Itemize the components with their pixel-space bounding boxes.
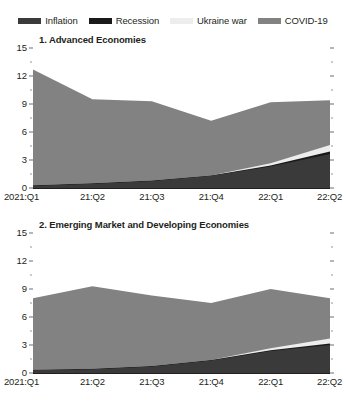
stacked-area-svg-2 — [33, 233, 330, 373]
y-tick-label: 15 — [0, 228, 27, 238]
plot-area-2 — [33, 233, 330, 373]
y-axis-labels-2: 03691215 — [0, 233, 27, 373]
y-tick-mark — [330, 289, 334, 290]
legend-item-inflation: Inflation — [18, 16, 77, 26]
x-tick-label: 22:Q1 — [258, 376, 283, 387]
y-tick-mark — [330, 188, 334, 189]
y-tick-label: 12 — [0, 256, 27, 266]
chart-legend: Inflation Recession Ukraine war COVID-19 — [0, 0, 346, 34]
x-axis-line-1 — [33, 188, 330, 189]
y-tick-mark — [330, 373, 334, 374]
panel-title-1: 1. Advanced Economies — [39, 34, 146, 46]
x-tick-label: 2021:Q1 — [4, 376, 39, 387]
x-tick-label: 21:Q4 — [199, 376, 224, 387]
y-axis-ticks-right-2 — [330, 233, 334, 373]
legend-item-ukraine-war: Ukraine war — [170, 16, 247, 26]
y-tick-mark — [330, 160, 334, 161]
y-tick-mark-minor — [30, 90, 32, 91]
x-tick-label: 21:Q2 — [80, 376, 105, 387]
y-tick-mark-minor — [30, 331, 32, 332]
chart-panel-advanced-economies: 1. Advanced Economies 03691215 2021:Q121… — [0, 34, 346, 219]
y-tick-label: 3 — [0, 155, 27, 165]
y-tick-mark-minor — [331, 359, 333, 360]
y-tick-mark — [330, 345, 334, 346]
y-tick-mark — [330, 132, 334, 133]
y-tick-mark-minor — [331, 90, 333, 91]
x-tick-label: 22:Q2 — [317, 191, 342, 202]
plot-area-1 — [33, 48, 330, 188]
legend-item-covid-19: COVID-19 — [258, 16, 328, 26]
legend-label-covid-19: COVID-19 — [285, 16, 328, 26]
legend-label-recession: Recession — [116, 16, 159, 26]
y-tick-mark-minor — [30, 275, 32, 276]
x-tick-label: 22:Q1 — [258, 191, 283, 202]
y-tick-label: 3 — [0, 340, 27, 350]
y-tick-mark-minor — [331, 303, 333, 304]
y-tick-mark-minor — [331, 118, 333, 119]
y-tick-label: 9 — [0, 284, 27, 294]
x-tick-label: 21:Q2 — [80, 191, 105, 202]
chart-panel-emerging-market-developing-economies: 2. Emerging Market and Developing Econom… — [0, 219, 346, 404]
y-tick-mark — [330, 261, 334, 262]
y-tick-mark-minor — [331, 331, 333, 332]
x-axis-labels-2: 2021:Q121:Q221:Q321:Q422:Q122:Q2 — [0, 376, 346, 392]
y-tick-mark-minor — [30, 174, 32, 175]
y-axis-ticks-right-1 — [330, 48, 334, 188]
y-tick-label: 6 — [0, 312, 27, 322]
y-tick-label: 9 — [0, 99, 27, 109]
panel-title-2: 2. Emerging Market and Developing Econom… — [39, 219, 249, 231]
y-tick-mark-minor — [331, 275, 333, 276]
legend-swatch-covid-19 — [258, 18, 281, 24]
y-tick-mark-minor — [30, 359, 32, 360]
x-tick-label: 21:Q4 — [199, 191, 224, 202]
legend-label-inflation: Inflation — [45, 16, 77, 26]
x-tick-label: 21:Q3 — [139, 376, 164, 387]
y-tick-label: 6 — [0, 127, 27, 137]
legend-swatch-inflation — [18, 18, 41, 24]
legend-item-recession: Recession — [89, 16, 159, 26]
y-tick-mark — [330, 317, 334, 318]
x-axis-line-2 — [33, 373, 330, 374]
x-tick-label: 22:Q2 — [317, 376, 342, 387]
y-tick-label: 15 — [0, 43, 27, 53]
y-tick-mark-minor — [30, 118, 32, 119]
x-axis-labels-1: 2021:Q121:Q221:Q321:Q422:Q122:Q2 — [0, 191, 346, 207]
legend-swatch-ukraine-war — [170, 18, 193, 24]
y-tick-label: 12 — [0, 71, 27, 81]
y-tick-mark-minor — [30, 247, 32, 248]
y-tick-mark-minor — [30, 303, 32, 304]
y-tick-mark-minor — [30, 62, 32, 63]
y-tick-mark-minor — [331, 146, 333, 147]
y-tick-mark — [330, 233, 334, 234]
stacked-area-svg-1 — [33, 48, 330, 188]
y-tick-mark-minor — [331, 174, 333, 175]
y-tick-mark-minor — [331, 247, 333, 248]
legend-swatch-recession — [89, 18, 112, 24]
y-tick-mark — [330, 76, 334, 77]
y-tick-mark-minor — [30, 146, 32, 147]
y-tick-mark — [330, 48, 334, 49]
y-tick-mark-minor — [331, 62, 333, 63]
legend-label-ukraine-war: Ukraine war — [197, 16, 247, 26]
x-tick-label: 2021:Q1 — [4, 191, 39, 202]
y-axis-labels-1: 03691215 — [0, 48, 27, 188]
y-tick-mark — [330, 104, 334, 105]
x-tick-label: 21:Q3 — [139, 191, 164, 202]
